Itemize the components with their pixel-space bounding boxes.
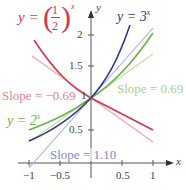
label-slope-069: Slope = 0.69 xyxy=(117,82,183,95)
label-2-pow-x: y = 2x xyxy=(7,113,40,128)
y-tick-label-05: 0.5 xyxy=(69,124,83,135)
frac-bar xyxy=(51,17,60,18)
y-tick-label-2: 2 xyxy=(77,29,83,40)
label-half-pow-x: y = xyxy=(18,10,39,25)
y-tick-label-1: 1 xyxy=(81,90,87,101)
label-2-exp: x xyxy=(37,112,41,121)
x-tick-label-05: 0.5 xyxy=(116,170,130,181)
x-tick-label-m05: −0.5 xyxy=(50,170,70,181)
x-axis-arrow-icon xyxy=(166,160,174,166)
y-tick-label-15: 1.5 xyxy=(69,60,83,71)
label-slope-110: Slope = 1.10 xyxy=(50,148,116,161)
label-2-base: y = 2 xyxy=(7,113,37,128)
label-3-pow-x: y = 3x xyxy=(117,9,150,24)
paren-right: ) xyxy=(61,2,71,32)
half-exponent: x xyxy=(71,3,75,11)
x-tick-label-m1: −1 xyxy=(23,170,35,181)
x-axis-label: x xyxy=(176,156,181,167)
frac-num: 1 xyxy=(52,4,58,16)
label-half-y: y = xyxy=(18,9,39,25)
label-3-exp: x xyxy=(147,8,151,17)
frac-den: 2 xyxy=(52,20,58,32)
y-axis-label: y xyxy=(96,2,101,13)
x-tick-label-1: 1 xyxy=(150,170,156,181)
y-axis-arrow-icon xyxy=(88,10,94,18)
label-3-base: y = 3 xyxy=(117,9,147,24)
label-slope-neg-069: Slope = −0.69 xyxy=(2,89,76,102)
